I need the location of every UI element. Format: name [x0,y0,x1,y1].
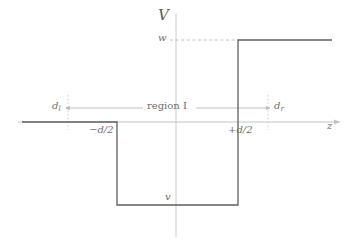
lower-level-label: v [165,192,171,202]
left-boundary-marker: dl [52,101,61,112]
region-label: region I [147,101,187,111]
v-axis-label: V [158,8,169,23]
right-boundary-marker-sub: r [280,104,283,113]
right-well-edge-label: +d/2 [228,125,253,135]
potential-step-figure: V w v z dl dr −d/2 +d/2 region I [0,0,353,249]
figure-canvas [0,0,353,249]
left-well-edge-label: −d/2 [89,125,114,135]
upper-level-label: w [158,33,167,43]
z-axis-label: z [327,121,332,131]
left-boundary-marker-sub: l [58,104,60,113]
right-boundary-marker: dr [274,101,284,112]
